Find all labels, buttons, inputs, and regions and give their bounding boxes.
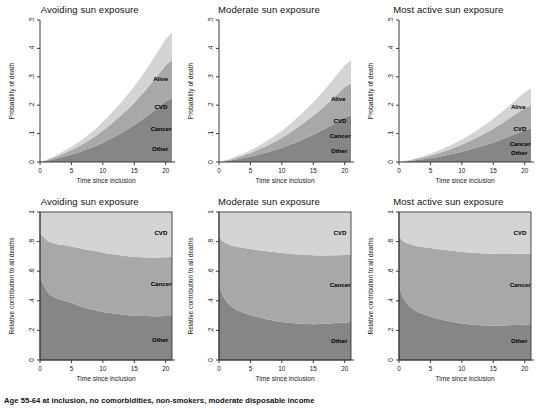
series-label-cancer: Cancer — [151, 280, 173, 287]
y-tick-label: 0 — [207, 160, 214, 164]
plot-host: 0.1.2.3.4.505101520Time since inclusionP… — [179, 0, 358, 190]
x-tick-label: 20 — [341, 167, 349, 174]
y-tick-label: .1 — [387, 130, 394, 136]
x-tick-label: 10 — [279, 365, 287, 372]
series-label-cancer: Cancer — [330, 281, 352, 288]
x-tick-label: 5 — [428, 365, 432, 372]
y-tick-label: 0 — [387, 358, 394, 362]
series-label-other: Other — [510, 149, 527, 156]
x-tick-label: 0 — [218, 167, 222, 174]
series-label-cancer: Cancer — [509, 140, 531, 147]
y-tick-label: .2 — [207, 102, 214, 108]
x-tick-label: 5 — [428, 167, 432, 174]
x-tick-label: 20 — [341, 365, 349, 372]
y-tick-label: .2 — [387, 327, 394, 333]
y-axis-title: Relative contribution to all deaths — [187, 237, 194, 335]
x-axis-title: Time since inclusion — [256, 177, 315, 184]
y-tick-label: 0 — [28, 160, 35, 164]
y-tick-label: .8 — [387, 238, 394, 244]
panel-title: Moderate sun exposure — [179, 196, 358, 207]
y-tick-label: .5 — [387, 17, 394, 23]
panel-title: Most active sun exposure — [359, 4, 538, 15]
series-label-cvd: CVD — [154, 103, 168, 110]
y-tick-label: .2 — [28, 327, 35, 333]
panel-bottom-moderate: Moderate sun exposure 0.2.4.6.8105101520… — [179, 190, 358, 386]
series-label-alive: Alive — [510, 103, 525, 110]
series-label-cancer: Cancer — [151, 125, 173, 132]
y-tick-label: 0 — [207, 358, 214, 362]
x-tick-label: 15 — [131, 167, 139, 174]
y-tick-label: .4 — [207, 45, 214, 51]
series-label-cvd: CVD — [513, 125, 527, 132]
x-tick-label: 5 — [249, 167, 253, 174]
figure-root: Avoiding sun exposure 0.1.2.3.4.50510152… — [0, 0, 538, 410]
plot-host: 0.1.2.3.4.505101520Time since inclusionP… — [359, 0, 538, 190]
y-tick-label: .4 — [207, 298, 214, 304]
x-axis-title: Time since inclusion — [435, 177, 494, 184]
x-tick-label: 0 — [397, 365, 401, 372]
panel-top-moderate: Moderate sun exposure 0.1.2.3.4.50510152… — [179, 0, 358, 190]
x-tick-label: 5 — [70, 365, 74, 372]
y-axis-title: Probability of death — [187, 62, 195, 119]
y-tick-label: .2 — [387, 102, 394, 108]
x-tick-label: 5 — [249, 365, 253, 372]
y-tick-label: 1 — [207, 210, 214, 214]
x-tick-label: 15 — [310, 167, 318, 174]
panel-top-most-active: Most active sun exposure 0.1.2.3.4.50510… — [359, 0, 538, 190]
y-tick-label: .4 — [387, 45, 394, 51]
x-tick-label: 20 — [521, 365, 529, 372]
panel-title: Most active sun exposure — [359, 196, 538, 207]
y-tick-label: .6 — [387, 268, 394, 274]
series-label-cvd: CVD — [513, 229, 527, 236]
x-tick-label: 10 — [458, 167, 466, 174]
figure-footnote: Age 55-64 at inclusion, no comorbidities… — [4, 396, 314, 405]
y-axis-title: Probability of death — [8, 62, 16, 119]
top-row: Avoiding sun exposure 0.1.2.3.4.50510152… — [0, 0, 538, 190]
x-tick-label: 0 — [397, 167, 401, 174]
x-tick-label: 10 — [99, 365, 107, 372]
series-label-other: Other — [152, 336, 169, 343]
series-label-other: Other — [331, 337, 348, 344]
x-tick-label: 10 — [279, 167, 287, 174]
x-tick-label: 0 — [218, 365, 222, 372]
plot-host: 0.1.2.3.4.505101520Time since inclusionP… — [0, 0, 179, 190]
y-tick-label: .1 — [207, 130, 214, 136]
x-tick-label: 10 — [99, 167, 107, 174]
series-label-other: Other — [152, 145, 169, 152]
x-tick-label: 15 — [310, 365, 318, 372]
x-axis-title: Time since inclusion — [76, 177, 135, 184]
x-tick-label: 20 — [162, 167, 170, 174]
y-tick-label: 1 — [387, 210, 394, 214]
x-axis-title: Time since inclusion — [435, 375, 494, 382]
y-tick-label: 0 — [387, 160, 394, 164]
panel-title: Avoiding sun exposure — [0, 4, 179, 15]
plot-host: 0.2.4.6.8105101520Time since inclusionRe… — [0, 190, 179, 386]
x-tick-label: 20 — [521, 167, 529, 174]
y-tick-label: .3 — [387, 74, 394, 80]
x-tick-label: 15 — [489, 365, 497, 372]
panel-title: Moderate sun exposure — [179, 4, 358, 15]
y-tick-label: .2 — [28, 102, 35, 108]
x-tick-label: 5 — [70, 167, 74, 174]
y-tick-label: .2 — [207, 327, 214, 333]
x-axis-title: Time since inclusion — [76, 375, 135, 382]
y-tick-label: .6 — [28, 268, 35, 274]
x-tick-label: 0 — [38, 365, 42, 372]
y-axis-title: Relative contribution to all deaths — [367, 237, 374, 335]
y-tick-label: .8 — [28, 238, 35, 244]
y-tick-label: .8 — [207, 238, 214, 244]
y-tick-label: .1 — [28, 130, 35, 136]
series-label-alive: Alive — [331, 95, 346, 102]
y-axis-title: Probability of death — [367, 62, 375, 119]
y-tick-label: .4 — [28, 298, 35, 304]
y-tick-label: 0 — [28, 358, 35, 362]
series-label-cvd: CVD — [154, 229, 168, 236]
plot-host: 0.2.4.6.8105101520Time since inclusionRe… — [359, 190, 538, 386]
x-tick-label: 15 — [131, 365, 139, 372]
y-tick-label: .4 — [28, 45, 35, 51]
x-axis-title: Time since inclusion — [256, 375, 315, 382]
y-axis-title: Relative contribution to all deaths — [8, 237, 15, 335]
y-tick-label: .4 — [387, 298, 394, 304]
panel-title: Avoiding sun exposure — [0, 196, 179, 207]
y-tick-label: .5 — [207, 17, 214, 23]
